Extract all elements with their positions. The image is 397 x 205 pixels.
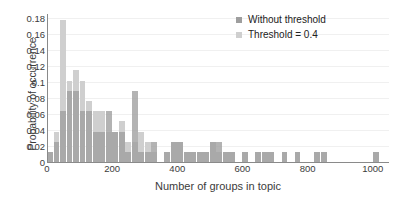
bar: [262, 152, 268, 162]
y-tick-label: 0.02: [27, 141, 46, 152]
y-tick-label: 0.12: [27, 61, 46, 72]
bar: [132, 91, 138, 162]
legend-swatch-icon: [236, 32, 242, 38]
x-tick-label: 600: [234, 163, 250, 174]
bar: [268, 152, 274, 162]
bar: [184, 152, 190, 162]
bar: [164, 152, 170, 162]
bar: [203, 152, 209, 162]
x-tick-label: 800: [300, 163, 316, 174]
bar: [73, 91, 79, 162]
y-tick-label: 0.18: [27, 13, 46, 24]
bar: [190, 152, 196, 162]
bar: [119, 132, 125, 162]
bar: [112, 132, 118, 162]
x-tick-label: 0: [44, 163, 49, 174]
bar: [106, 111, 112, 162]
bar: [54, 142, 60, 162]
x-tick-label: 400: [169, 163, 185, 174]
y-tick-label: 0.1: [32, 77, 45, 88]
y-tick-label: 0.16: [27, 29, 46, 40]
bar: [138, 152, 144, 162]
legend-item[interactable]: Without threshold: [236, 13, 326, 26]
bar: [314, 152, 320, 162]
bar: [145, 152, 151, 162]
legend-label: Threshold = 0.4: [248, 29, 318, 40]
x-axis-tick-labels: 02004006008001000: [47, 163, 389, 177]
bar: [210, 142, 216, 162]
bar: [125, 152, 131, 162]
y-tick-label: 0.14: [27, 45, 46, 56]
bar: [282, 152, 288, 162]
bar: [295, 152, 301, 162]
y-axis-line: [47, 14, 48, 162]
bar: [99, 132, 105, 162]
bar: [86, 111, 92, 162]
bar: [80, 111, 86, 162]
y-tick-label: 0.08: [27, 93, 46, 104]
bar: [321, 152, 327, 162]
bar: [67, 91, 73, 162]
bar: [223, 152, 229, 162]
legend-label: Without threshold: [248, 14, 326, 25]
y-axis-tick-labels: 00.020.040.060.080.10.120.140.160.18: [10, 0, 45, 205]
bar-group: [47, 14, 389, 162]
bar: [197, 152, 203, 162]
x-tick-label: 200: [104, 163, 120, 174]
bar: [171, 142, 177, 162]
legend-swatch-icon: [236, 17, 242, 23]
bar: [242, 152, 248, 162]
y-tick-label: 0.04: [27, 125, 46, 136]
histogram-chart: Probability of occurrence 00.020.040.060…: [0, 0, 397, 205]
chart-legend: Without thresholdThreshold = 0.4: [236, 13, 326, 43]
bar: [216, 142, 222, 162]
bar: [93, 132, 99, 162]
bar: [229, 152, 235, 162]
bar: [255, 152, 261, 162]
bar: [60, 111, 66, 162]
bar: [177, 142, 183, 162]
bar: [373, 152, 379, 162]
bar: [151, 142, 157, 162]
plot-area: [47, 14, 389, 162]
x-axis-title: Number of groups in topic: [47, 180, 389, 192]
x-tick-label: 1000: [362, 163, 383, 174]
legend-item[interactable]: Threshold = 0.4: [236, 28, 326, 41]
y-tick-label: 0.06: [27, 109, 46, 120]
